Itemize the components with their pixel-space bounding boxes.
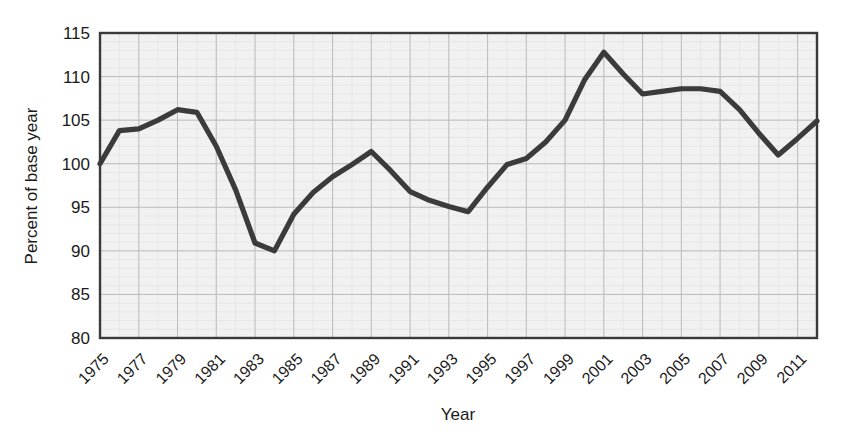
x-axis-title: Year xyxy=(441,405,476,424)
y-tick-label: 115 xyxy=(63,24,90,43)
plot-area-background xyxy=(100,33,817,338)
line-chart: 80859095100105110115 1975197719791981198… xyxy=(0,0,842,446)
y-tick-label: 95 xyxy=(71,198,90,217)
y-tick-label: 100 xyxy=(62,155,90,174)
y-tick-label: 85 xyxy=(71,285,90,304)
chart-container: 80859095100105110115 1975197719791981198… xyxy=(0,0,842,446)
y-axis-title: Percent of base year xyxy=(22,107,41,264)
y-tick-label: 110 xyxy=(63,68,90,87)
y-tick-label: 80 xyxy=(71,329,90,348)
y-tick-label: 90 xyxy=(71,242,90,261)
y-tick-label: 105 xyxy=(62,111,90,130)
